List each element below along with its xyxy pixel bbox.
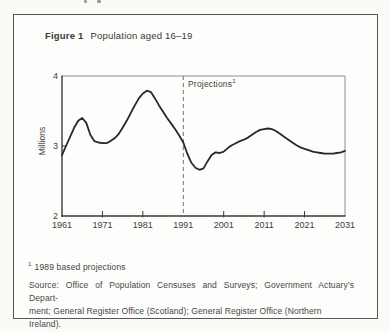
x-tick-label-2031: 2031 xyxy=(328,220,362,230)
x-tick-label-1981: 1981 xyxy=(126,220,160,230)
source-line-1: Source: Office of Population Censuses an… xyxy=(29,279,354,305)
y-tick-label-4: 4 xyxy=(38,71,58,81)
source-line-2: ment; General Register Office (Scotland)… xyxy=(29,305,354,331)
figure-box: Figure 1Population aged 16–19 Millions 4… xyxy=(13,14,378,319)
x-tick-label-2021: 2021 xyxy=(288,220,322,230)
population-chart: Millions 432 196119711981199120012011202… xyxy=(14,15,377,255)
chart-canvas xyxy=(14,15,377,255)
y-tick-label-3: 3 xyxy=(38,141,58,151)
projections-annotation-superscript: 1 xyxy=(232,78,236,84)
x-tick-label-2001: 2001 xyxy=(207,220,241,230)
projections-annotation: Projections1 xyxy=(188,78,236,89)
cropped-text-remnant xyxy=(97,0,101,3)
footnote-marker: 1 xyxy=(28,261,32,267)
x-tick-label-1961: 1961 xyxy=(45,220,79,230)
x-tick-label-2011: 2011 xyxy=(247,220,281,230)
projections-annotation-text: Projections xyxy=(188,79,232,89)
cropped-text-remnant xyxy=(84,0,87,3)
population-line xyxy=(62,91,345,170)
footnote: 11989 based projections xyxy=(28,261,126,272)
page: Figure 1Population aged 16–19 Millions 4… xyxy=(0,0,390,332)
x-tick-label-1991: 1991 xyxy=(166,220,200,230)
footnote-text: 1989 based projections xyxy=(35,262,126,272)
x-tick-label-1971: 1971 xyxy=(85,220,119,230)
source-note: Source: Office of Population Censuses an… xyxy=(29,279,354,331)
